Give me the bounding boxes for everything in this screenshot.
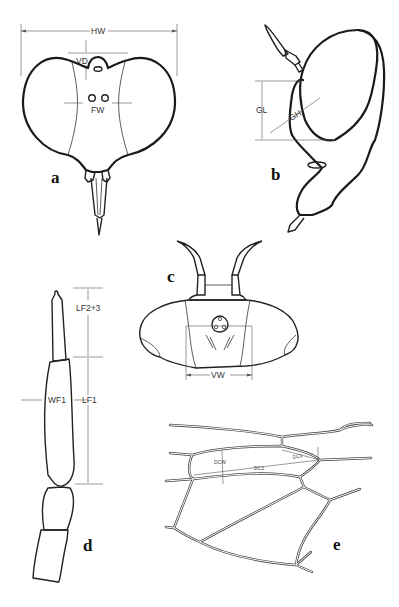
lf1-dimension: LF1: [75, 358, 103, 484]
panel-label-a: a: [51, 168, 60, 187]
vw-label: VW: [211, 370, 225, 380]
compound-eye-dorsal: [140, 300, 298, 368]
fw-label: FW: [91, 105, 104, 115]
dcw-dimension: DCW: [214, 451, 226, 484]
gh-dimension: GH: [270, 98, 320, 133]
panel-label-b: b: [271, 165, 280, 184]
compound-eye-lateral: [300, 30, 377, 140]
wf1-label: WF1: [48, 395, 66, 405]
panel-label-c: c: [167, 267, 175, 286]
panel-c-head-dorsal: VW c: [140, 241, 298, 380]
dcw-label: DCW: [214, 459, 226, 465]
dc2-label: DC2: [254, 465, 264, 471]
dc1-label: DC1: [292, 452, 303, 460]
vd-dimension: VD: [68, 40, 128, 80]
lf23-dimension: LF2+3: [73, 288, 103, 357]
panel-d-antenna: LF2+3 LF1 WF1 d: [21, 288, 103, 582]
panel-b-head-lateral: GL GH b: [255, 25, 384, 232]
morphology-figure: HW VD FW a: [0, 0, 399, 607]
hw-dimension: HW: [21, 24, 177, 76]
wf1-dimension: WF1: [21, 395, 88, 405]
dc1-dimension: DC1: [282, 447, 320, 461]
lf23-label: LF2+3: [76, 303, 101, 313]
fw-dimension: FW: [64, 103, 132, 115]
panel-e-wing-venation: DCW DC2 DC1 e: [166, 423, 372, 572]
hw-label: HW: [91, 26, 105, 36]
panel-label-e: e: [333, 535, 341, 554]
gl-label: GL: [256, 105, 268, 115]
panel-label-d: d: [83, 536, 93, 555]
panel-a-head-frontal: HW VD FW a: [21, 24, 177, 235]
